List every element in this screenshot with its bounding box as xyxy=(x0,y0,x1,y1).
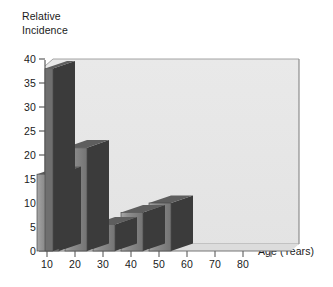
bar-age-10 xyxy=(45,61,75,251)
chart-figure: Relative Incidence Age (Years) 0 5 10 15… xyxy=(0,0,333,287)
x-axis xyxy=(47,251,271,257)
chart-plot-area xyxy=(0,0,333,287)
